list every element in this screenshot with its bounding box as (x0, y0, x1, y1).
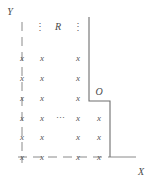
lattice-point: x (76, 153, 80, 162)
lattice-point: x (40, 114, 44, 123)
x-axis-label: X (138, 167, 144, 177)
lattice-point: x (76, 133, 80, 142)
lattice-point: x (20, 153, 24, 162)
lattice-point: x (20, 74, 24, 83)
lattice-point: x (20, 114, 24, 123)
lattice-point: x (76, 54, 80, 63)
corner-label-o: O (95, 87, 102, 97)
vertical-ellipsis-right: ⋮ (73, 22, 83, 32)
lattice-point: x (76, 74, 80, 83)
lattice-point: x (40, 94, 44, 103)
lattice-point: x (20, 133, 24, 142)
lattice-point: x (97, 114, 101, 123)
region-label-r: R (55, 22, 61, 32)
lattice-point: x (76, 94, 80, 103)
lattice-point: x (97, 133, 101, 142)
lattice-point: x (20, 54, 24, 63)
lattice-point: x (97, 153, 101, 162)
y-axis-label: Y (7, 7, 13, 17)
vertical-ellipsis-left: ⋮ (35, 22, 45, 32)
lattice-point: x (40, 74, 44, 83)
lattice-point: x (40, 133, 44, 142)
lattice-point: x (40, 153, 44, 162)
horizontal-ellipsis: ⋯ (56, 114, 65, 123)
lattice-region-figure: Y X R O ⋮ ⋮ ⋯ xxxxxxxxxxxxxxxxxxxxx (0, 0, 151, 180)
lattice-point: x (20, 94, 24, 103)
lattice-point: x (76, 114, 80, 123)
lattice-point: x (40, 54, 44, 63)
